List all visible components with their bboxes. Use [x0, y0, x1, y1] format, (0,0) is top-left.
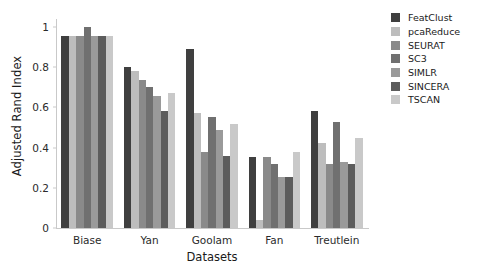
- y-tick-label: 0.4: [32, 142, 56, 154]
- bar: [318, 143, 325, 228]
- bar: [98, 36, 105, 228]
- bar: [311, 111, 318, 228]
- x-tick-label: Goolam: [192, 234, 233, 246]
- x-tick-label: Treutlein: [314, 234, 359, 246]
- chart-legend: FeatClustpcaReduceSEURATSC3SIMLRSINCERAT…: [391, 11, 477, 107]
- bar-group: Biase: [56, 19, 118, 228]
- legend-swatch-icon: [391, 41, 400, 50]
- bar: [201, 152, 208, 228]
- bar: [84, 27, 91, 228]
- legend-swatch-icon: [391, 82, 400, 91]
- y-tick-label: 0.2: [32, 182, 56, 194]
- x-axis-title-text: Datasets: [186, 250, 237, 264]
- legend-item-label: TSCAN: [408, 94, 440, 105]
- legend-item-label: SEURAT: [408, 40, 445, 51]
- bar: [340, 162, 347, 228]
- bar: [271, 164, 278, 228]
- bar: [293, 152, 300, 228]
- y-tick-label: 1: [42, 21, 56, 33]
- bar: [223, 156, 230, 228]
- bar: [139, 80, 146, 228]
- y-tick-label: 0.8: [32, 61, 56, 73]
- plot-area: 00.20.40.60.81 BiaseYanGoolamFanTreutlei…: [56, 19, 368, 228]
- bar: [131, 71, 138, 228]
- legend-item[interactable]: TSCAN: [391, 93, 477, 107]
- bar-chart-figure: Adjusted Rand Index 00.20.40.60.81 Biase…: [0, 0, 479, 273]
- bar-group: Fan: [243, 19, 305, 228]
- legend-item[interactable]: SIMLR: [391, 66, 477, 80]
- x-tick-label: Yan: [141, 234, 159, 246]
- bar: [333, 122, 340, 229]
- y-axis-title: Adjusted Rand Index: [5, 0, 29, 232]
- bar: [106, 36, 113, 228]
- legend-item-label: FeatClust: [408, 12, 452, 23]
- legend-swatch-icon: [391, 95, 400, 104]
- legend-item-label: SIMLR: [408, 67, 437, 78]
- legend-swatch-icon: [391, 13, 400, 22]
- bar: [161, 111, 168, 228]
- legend-item[interactable]: FeatClust: [391, 11, 477, 25]
- bar: [256, 220, 263, 228]
- legend-item[interactable]: SEURAT: [391, 38, 477, 52]
- legend-item-label: pcaReduce: [408, 26, 460, 37]
- bar: [146, 87, 153, 228]
- bar: [348, 164, 355, 228]
- x-axis-line: [56, 228, 369, 229]
- bar: [355, 138, 362, 228]
- x-axis-title: Datasets: [56, 250, 368, 264]
- legend-item-label: SC3: [408, 53, 427, 64]
- bar: [76, 36, 83, 228]
- bar-group: Yan: [118, 19, 180, 228]
- y-tick-label: 0.6: [32, 101, 56, 113]
- legend-swatch-icon: [391, 54, 400, 63]
- bar-group: Treutlein: [306, 19, 368, 228]
- bar: [69, 36, 76, 228]
- legend-swatch-icon: [391, 68, 400, 77]
- y-tick-label: 0: [42, 222, 56, 234]
- bar: [168, 93, 175, 228]
- bar: [91, 36, 98, 228]
- legend-swatch-icon: [391, 27, 400, 36]
- bar: [249, 157, 256, 228]
- bar: [230, 124, 237, 229]
- bar: [263, 157, 270, 228]
- bar: [285, 177, 292, 228]
- bar: [208, 117, 215, 228]
- bar: [186, 49, 193, 228]
- bar: [326, 164, 333, 228]
- legend-item-label: SINCERA: [408, 81, 449, 92]
- bar: [124, 67, 131, 228]
- bar: [216, 130, 223, 228]
- legend-item[interactable]: SC3: [391, 52, 477, 66]
- legend-item[interactable]: pcaReduce: [391, 25, 477, 39]
- x-tick-label: Biase: [73, 234, 102, 246]
- bar: [61, 36, 68, 228]
- bar-group: Goolam: [181, 19, 243, 228]
- bar: [278, 177, 285, 228]
- x-tick-label: Fan: [265, 234, 283, 246]
- bar: [153, 96, 160, 228]
- y-axis-title-text: Adjusted Rand Index: [10, 56, 24, 177]
- legend-item[interactable]: SINCERA: [391, 79, 477, 93]
- bar: [194, 113, 201, 228]
